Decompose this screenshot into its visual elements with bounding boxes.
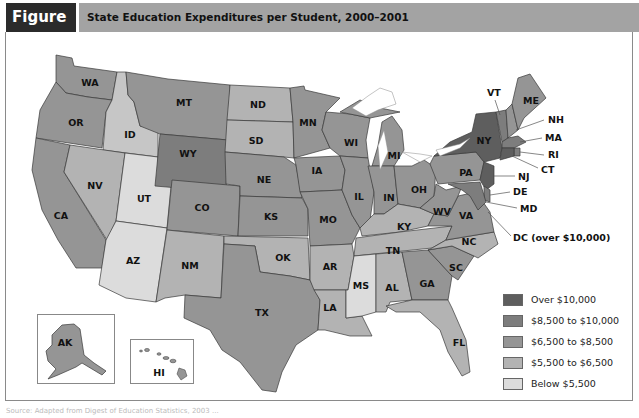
legend-swatch (503, 378, 523, 390)
label-pa: PA (459, 167, 473, 178)
label-il: IL (354, 191, 364, 202)
label-ut: UT (137, 193, 152, 204)
state-ct (500, 148, 514, 160)
label-nd: ND (250, 99, 266, 110)
alaska-inset: AK (37, 314, 115, 384)
label-ny: NY (477, 135, 492, 146)
label-sc: SC (449, 262, 463, 273)
label-ms: MS (353, 280, 369, 291)
label-mo: MO (319, 214, 337, 225)
label-hi: HI (153, 367, 165, 378)
legend-swatch (503, 294, 523, 306)
label-la: LA (323, 302, 337, 313)
legend-item-below-5500: Below $5,500 (503, 373, 619, 394)
label-wy: WY (179, 148, 196, 159)
label-ar: AR (323, 261, 338, 272)
legend: Over $10,000 $8,500 to $10,000 $6,500 to… (503, 289, 619, 394)
label-vt: VT (487, 87, 501, 98)
state-ri (514, 148, 520, 156)
legend-label: Over $10,000 (531, 294, 596, 305)
label-oh: OH (411, 184, 427, 195)
label-ky: KY (397, 221, 411, 232)
leader-md (486, 202, 517, 208)
label-ks: KS (264, 211, 278, 222)
label-co: CO (194, 202, 209, 213)
label-de: DE (513, 186, 527, 197)
legend-label: $6,500 to $8,500 (531, 336, 613, 347)
hawaii-inset: HI (130, 339, 194, 384)
label-ia: IA (312, 165, 324, 176)
label-ma: MA (545, 132, 562, 143)
label-az: AZ (126, 255, 140, 266)
label-fl: FL (453, 337, 466, 348)
label-mi: MI (388, 150, 401, 161)
legend-item-5500-6500: $5,500 to $6,500 (503, 352, 619, 373)
label-tx: TX (255, 307, 269, 318)
legend-label: Below $5,500 (531, 378, 596, 389)
legend-item-6500-8500: $6,500 to $8,500 (503, 331, 619, 352)
label-md: MD (520, 203, 537, 214)
legend-item-8500-10000: $8,500 to $10,000 (503, 310, 619, 331)
label-wv: WV (433, 206, 451, 217)
legend-item-over-10000: Over $10,000 (503, 289, 619, 310)
label-sd: SD (249, 135, 264, 146)
label-ca: CA (54, 210, 69, 221)
label-ak: AK (58, 337, 73, 348)
label-nv: NV (87, 180, 103, 191)
legend-swatch (503, 336, 523, 348)
label-ct: CT (541, 164, 555, 175)
legend-swatch (503, 357, 523, 369)
legend-label: $8,500 to $10,000 (531, 315, 619, 326)
label-ri: RI (548, 149, 559, 160)
label-va: VA (459, 210, 474, 221)
label-dc: DC (over $10,000) (513, 232, 610, 243)
state-ak (46, 324, 106, 379)
label-ne: NE (257, 174, 271, 185)
label-tn: TN (386, 245, 400, 256)
label-wa: WA (81, 77, 99, 88)
leader-de (490, 192, 510, 195)
label-nm: NM (181, 260, 198, 271)
label-mn: MN (299, 117, 316, 128)
state-wi (322, 112, 370, 158)
legend-swatch (503, 315, 523, 327)
label-mt: MT (176, 97, 192, 108)
label-ga: GA (419, 278, 435, 289)
leader-ri (520, 152, 544, 155)
label-in: IN (383, 192, 395, 203)
label-al: AL (385, 282, 398, 293)
label-id: ID (124, 129, 136, 140)
source-line: Source: Adapted from Digest of Education… (6, 407, 219, 415)
label-nj: NJ (518, 171, 530, 182)
label-nh: NH (548, 114, 564, 125)
label-me: ME (523, 95, 539, 106)
label-or: OR (68, 117, 84, 128)
label-nc: NC (462, 236, 477, 247)
state-pa (430, 152, 484, 184)
label-wi: WI (344, 137, 358, 148)
leader-ct (512, 156, 538, 168)
label-ok: OK (275, 252, 291, 263)
legend-label: $5,500 to $6,500 (531, 357, 613, 368)
